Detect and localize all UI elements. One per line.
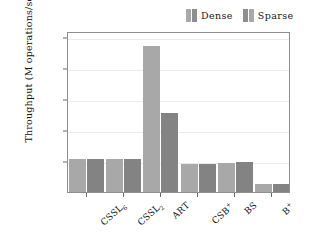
x-tick-mark (160, 193, 161, 197)
x-tick-label-bs: BS (243, 200, 259, 216)
bar-csb+-dense (181, 164, 198, 192)
legend-label-dense: Dense (201, 9, 233, 22)
bar-b+-sparse (273, 184, 290, 192)
legend-label-sparse: Sparse (258, 9, 294, 22)
x-tick-label-b+: B+ (280, 200, 297, 217)
legend-swatch-dense-b (192, 9, 197, 22)
x-tick-mark (271, 193, 272, 197)
chart-legend: Dense Sparse (186, 8, 294, 22)
legend-swatch-sparse-b (249, 9, 254, 22)
x-tick-label-cssl2: CSSL2 (135, 200, 165, 229)
bar-bs-sparse (236, 162, 253, 192)
legend-swatch-sparse-icon (243, 9, 254, 22)
bar-cssl2-sparse (124, 159, 141, 192)
bars-layer (68, 33, 289, 192)
bar-chart: Dense Sparse Throughput (M operations/se… (0, 0, 310, 242)
bar-art-sparse (161, 113, 178, 192)
bar-art-dense (143, 46, 160, 192)
bar-csb+-sparse (199, 164, 216, 192)
bar-group (106, 33, 141, 192)
bar-group (69, 33, 104, 192)
x-tick-mark (197, 193, 198, 197)
x-tick-mark (234, 193, 235, 197)
bar-cssl6-dense (69, 159, 86, 192)
legend-item-sparse: Sparse (243, 9, 294, 22)
legend-swatch-dense-icon (186, 9, 197, 22)
bar-bs-dense (218, 163, 235, 192)
bar-b+-dense (255, 184, 272, 192)
bar-group (255, 33, 290, 192)
x-tick-label-csb+: CSB+ (209, 200, 236, 226)
plot-area (67, 32, 290, 193)
y-axis-title: Throughput (M operations/second) (23, 0, 34, 143)
x-tick-label-art: ART (170, 200, 191, 221)
bar-group (143, 33, 178, 192)
bar-group (181, 33, 216, 192)
x-tick-mark (86, 193, 87, 197)
bar-cssl6-sparse (87, 159, 104, 192)
bar-group (218, 33, 253, 192)
x-tick-mark (123, 193, 124, 197)
bar-cssl2-dense (106, 159, 123, 192)
legend-item-dense: Dense (186, 9, 233, 22)
x-tick-label-cssl6: CSSL6 (98, 200, 128, 229)
